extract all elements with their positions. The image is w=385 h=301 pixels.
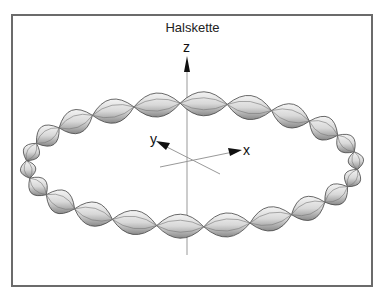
- bead: [227, 95, 271, 119]
- x-axis-label: x: [243, 142, 250, 158]
- z-axis-label: z: [183, 39, 190, 55]
- necklace-beads: [20, 92, 363, 238]
- y-axis: [161, 144, 220, 174]
- bead: [250, 207, 291, 231]
- bead: [337, 134, 355, 152]
- bead: [348, 152, 363, 170]
- x-arrow-icon: [228, 148, 242, 156]
- y-axis-label: y: [150, 131, 157, 147]
- bead: [59, 109, 92, 133]
- bead: [291, 196, 324, 220]
- bead: [93, 99, 134, 123]
- x-axis: [160, 152, 233, 167]
- bead: [325, 184, 348, 205]
- bead: [36, 125, 59, 146]
- y-arrow-icon: [156, 141, 170, 150]
- bead: [134, 93, 180, 117]
- bead: [20, 161, 35, 179]
- necklace-plot: z x y: [0, 0, 385, 301]
- z-arrow-icon: [184, 56, 190, 72]
- bead: [204, 213, 250, 237]
- bead: [157, 214, 204, 238]
- bead: [112, 210, 156, 234]
- bead: [29, 177, 47, 195]
